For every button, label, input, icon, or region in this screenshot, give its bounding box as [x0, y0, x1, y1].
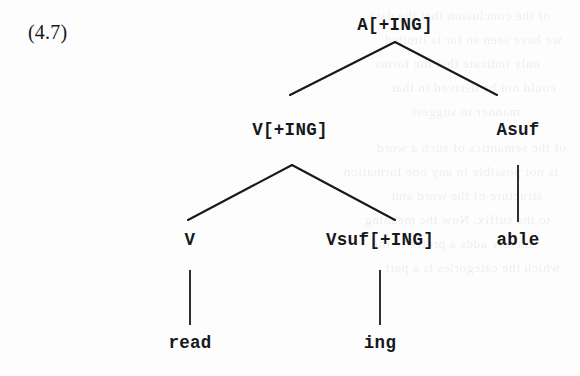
- tree-node-root: A[+ING]: [357, 15, 433, 35]
- tree-terminal-ing: ing: [364, 333, 396, 353]
- edge-root-to-v1: [290, 42, 395, 95]
- tree-node-v: V: [185, 230, 196, 250]
- tree-node-vsuf-ing: Vsuf[+ING]: [326, 230, 434, 250]
- tree-node-asuf: Asuf: [496, 120, 539, 140]
- tree-terminal-read: read: [168, 333, 211, 353]
- edge-v1-to-vsuf: [292, 165, 395, 220]
- tree-node-v-ing: V[+ING]: [252, 120, 328, 140]
- edge-v1-to-v2: [188, 165, 292, 220]
- tree-terminal-able: able: [496, 230, 539, 250]
- tree-edges: [0, 0, 580, 376]
- edge-root-to-asuf: [395, 42, 497, 95]
- figure-page: of the conclusion that the data we have …: [0, 0, 580, 376]
- tree-diagram: (4.7) A[+ING] V[+ING] Asuf V Vsuf[+ING] …: [0, 0, 580, 376]
